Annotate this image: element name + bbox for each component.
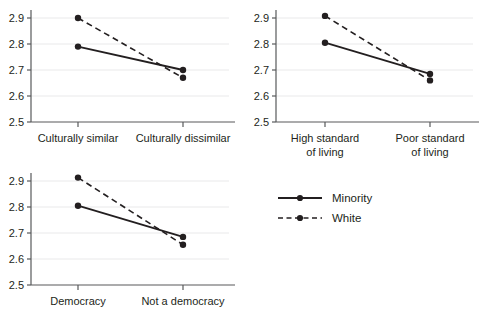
panel-1-plot: 2.9 2.8 2.7 2.6 2.5 Cultural <box>0 0 241 160</box>
data-point <box>427 71 433 77</box>
data-point <box>180 75 186 81</box>
data-point <box>427 77 433 83</box>
x-axis-ticks <box>325 122 430 127</box>
gridlines <box>31 181 229 259</box>
data-point <box>322 13 328 19</box>
x-category-label: Poor standard <box>395 132 464 144</box>
y-tick-label: 2.5 <box>254 116 269 128</box>
data-point <box>180 242 186 248</box>
gridlines <box>31 18 229 96</box>
x-category-label: Culturally similar <box>38 132 119 144</box>
panel-2-plot: 2.9 2.8 2.7 2.6 2.5 High standard of <box>245 0 483 165</box>
legend-label-minority: Minority <box>332 192 373 204</box>
y-tick-label: 2.9 <box>9 175 24 187</box>
y-axis-ticks <box>272 18 276 122</box>
data-point <box>75 43 81 49</box>
panel-3-plot: 2.9 2.8 2.7 2.6 2.5 Democracy Not a <box>0 163 241 323</box>
y-tick-label: 2.6 <box>9 90 24 102</box>
legend-label-white: White <box>332 212 361 224</box>
y-tick-label: 2.5 <box>9 116 24 128</box>
legend-graphic: Minority White <box>276 186 456 236</box>
x-axis-ticks <box>78 122 183 127</box>
x-category-label: Culturally dissimilar <box>136 132 231 144</box>
legend-item-minority: Minority <box>278 192 373 204</box>
panel-cultural-similarity: 2.9 2.8 2.7 2.6 2.5 Cultural <box>0 0 241 160</box>
series-white <box>75 15 186 81</box>
x-category-label: of living <box>306 146 343 158</box>
data-point <box>75 15 81 21</box>
chart-legend: Minority White <box>276 186 456 236</box>
y-tick-label: 2.6 <box>254 90 269 102</box>
data-point <box>180 234 186 240</box>
y-tick-label: 2.7 <box>9 227 24 239</box>
panel-standard-of-living: 2.9 2.8 2.7 2.6 2.5 High standard of <box>245 0 483 165</box>
y-tick-label: 2.8 <box>9 201 24 213</box>
y-tick-label: 2.7 <box>9 64 24 76</box>
legend-marker <box>297 195 303 201</box>
legend-marker <box>297 215 303 221</box>
series-minority <box>75 203 186 241</box>
x-category-label: Not a democracy <box>141 295 225 307</box>
x-category-label: High standard <box>291 132 360 144</box>
y-tick-label: 2.6 <box>9 253 24 265</box>
y-tick-label: 2.9 <box>9 12 24 24</box>
x-axis-ticks <box>78 285 183 290</box>
y-tick-label: 2.9 <box>254 12 269 24</box>
series-minority <box>322 40 433 78</box>
legend-item-white: White <box>278 212 361 224</box>
data-point <box>180 67 186 73</box>
y-tick-label: 2.8 <box>254 38 269 50</box>
figure-multipanel-line-charts: 2.9 2.8 2.7 2.6 2.5 Cultural <box>0 0 483 323</box>
y-tick-label: 2.5 <box>9 279 24 291</box>
panel-democracy: 2.9 2.8 2.7 2.6 2.5 Democracy Not a <box>0 163 241 323</box>
series-white <box>75 174 186 248</box>
data-point <box>322 40 328 46</box>
y-tick-label: 2.7 <box>254 64 269 76</box>
x-category-label: of living <box>411 146 448 158</box>
series-white <box>322 13 433 84</box>
data-point <box>75 174 81 180</box>
data-point <box>75 203 81 209</box>
y-tick-label: 2.8 <box>9 38 24 50</box>
x-category-label: Democracy <box>50 295 106 307</box>
